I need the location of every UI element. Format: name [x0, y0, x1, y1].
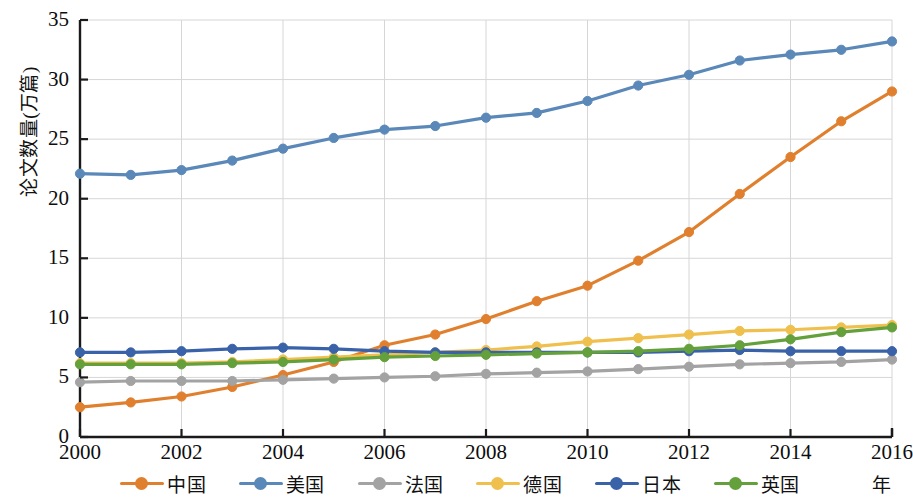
data-point: [329, 344, 338, 353]
data-point: [431, 351, 440, 360]
x-tick-label: 2010: [543, 442, 633, 463]
plot-svg: [80, 20, 892, 437]
data-point: [786, 335, 795, 344]
y-tick-label: 25: [17, 128, 69, 149]
legend-swatch-icon: [476, 476, 520, 490]
legend-marker-icon: [610, 477, 623, 490]
legend-label: 德国: [523, 470, 562, 497]
data-point: [887, 37, 896, 46]
data-point: [735, 360, 744, 369]
data-point: [684, 362, 693, 371]
legend-label: 美国: [286, 470, 325, 497]
x-tick-label: 2006: [340, 442, 430, 463]
data-point: [837, 357, 846, 366]
legend-label: 中国: [167, 470, 206, 497]
data-point: [126, 360, 135, 369]
data-point: [684, 227, 693, 236]
data-point: [786, 50, 795, 59]
data-point: [177, 360, 186, 369]
legend-item-中国[interactable]: 中国: [120, 470, 206, 497]
data-point: [684, 344, 693, 353]
data-point: [532, 349, 541, 358]
data-point: [634, 347, 643, 356]
data-point: [278, 357, 287, 366]
data-point: [228, 359, 237, 368]
legend-swatch-icon: [239, 476, 283, 490]
legend-marker-icon: [135, 477, 148, 490]
legend-label: 英国: [761, 470, 800, 497]
legend-label: 法国: [405, 470, 444, 497]
data-point: [887, 87, 896, 96]
data-point: [481, 113, 490, 122]
data-point: [177, 166, 186, 175]
legend-marker-icon: [373, 477, 386, 490]
x-tick-label: 2014: [746, 442, 836, 463]
legend-item-日本[interactable]: 日本: [595, 470, 681, 497]
line-chart-figure: 论文数量(万篇) 05101520253035 2000200220042006…: [0, 0, 913, 502]
y-tick-label: 20: [17, 188, 69, 209]
plot-area: [80, 20, 892, 437]
data-point: [532, 108, 541, 117]
data-point: [735, 189, 744, 198]
data-point: [431, 330, 440, 339]
y-tick-label: 10: [17, 307, 69, 328]
data-point: [786, 347, 795, 356]
x-tick-label: 2002: [137, 442, 227, 463]
legend-item-法国[interactable]: 法国: [358, 470, 444, 497]
y-tick-label: 5: [17, 366, 69, 387]
data-point: [634, 364, 643, 373]
data-point: [380, 125, 389, 134]
data-point: [735, 341, 744, 350]
data-point: [634, 81, 643, 90]
data-point: [126, 376, 135, 385]
data-point: [228, 156, 237, 165]
data-point: [735, 56, 744, 65]
data-point: [786, 359, 795, 368]
data-point: [177, 376, 186, 385]
data-point: [126, 170, 135, 179]
data-point: [583, 96, 592, 105]
chart-legend: 中国美国法国德国日本英国: [120, 468, 800, 498]
data-point: [786, 152, 795, 161]
data-point: [583, 281, 592, 290]
data-point: [75, 348, 84, 357]
data-point: [126, 398, 135, 407]
data-point: [887, 355, 896, 364]
legend-item-英国[interactable]: 英国: [714, 470, 800, 497]
y-tick-label: 30: [17, 69, 69, 90]
data-point: [532, 297, 541, 306]
y-tick-label: 15: [17, 247, 69, 268]
x-tick-label: 2004: [238, 442, 328, 463]
data-point: [887, 347, 896, 356]
x-tick-label: 2012: [644, 442, 734, 463]
data-point: [278, 343, 287, 352]
data-point: [228, 376, 237, 385]
data-point: [75, 169, 84, 178]
data-point: [532, 368, 541, 377]
legend-marker-icon: [729, 477, 742, 490]
data-point: [481, 350, 490, 359]
data-point: [837, 45, 846, 54]
legend-item-德国[interactable]: 德国: [476, 470, 562, 497]
data-point: [786, 325, 795, 334]
data-point: [735, 326, 744, 335]
data-point: [278, 375, 287, 384]
data-point: [684, 70, 693, 79]
legend-item-美国[interactable]: 美国: [239, 470, 325, 497]
data-point: [177, 347, 186, 356]
data-point: [329, 355, 338, 364]
legend-marker-icon: [254, 477, 267, 490]
data-point: [75, 378, 84, 387]
data-point: [431, 372, 440, 381]
data-point: [583, 348, 592, 357]
x-tick-label: 2016: [847, 442, 913, 463]
data-point: [887, 323, 896, 332]
data-point: [634, 256, 643, 265]
x-axis-title: 年: [872, 470, 891, 497]
data-point: [75, 403, 84, 412]
data-point: [75, 360, 84, 369]
data-point: [278, 144, 287, 153]
x-tick-label: 2008: [441, 442, 531, 463]
data-point: [329, 133, 338, 142]
y-tick-label: 35: [17, 9, 69, 30]
